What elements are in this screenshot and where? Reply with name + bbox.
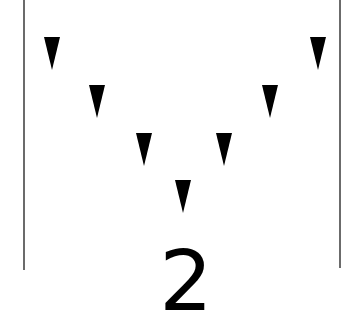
triangle-marker-2 bbox=[89, 85, 105, 118]
triangle-marker-5 bbox=[216, 133, 232, 166]
right-bracket-line bbox=[339, 0, 341, 268]
triangle-marker-7 bbox=[310, 37, 326, 70]
triangle-marker-4 bbox=[175, 180, 191, 213]
triangle-marker-6 bbox=[262, 85, 278, 118]
triangle-marker-1 bbox=[44, 37, 60, 70]
left-bracket-line bbox=[23, 0, 25, 270]
figure-number-label: 2 bbox=[150, 236, 222, 326]
triangle-marker-3 bbox=[136, 133, 152, 166]
